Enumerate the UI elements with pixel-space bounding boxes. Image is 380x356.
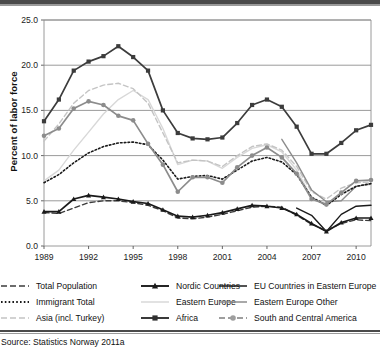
series-marker (176, 131, 180, 135)
series-marker (116, 44, 120, 48)
series-marker (175, 189, 180, 194)
series-marker (324, 152, 328, 156)
y-axis-tick: 25.0 (21, 15, 38, 25)
series-marker (324, 202, 329, 207)
series-marker (146, 142, 151, 147)
legend-item[interactable]: South and Central America (218, 312, 380, 324)
series-marker (42, 133, 47, 138)
chart-area: Percent of labor force 0.05.010.015.020.… (0, 8, 380, 276)
y-axis-tick: 0.0 (26, 241, 38, 251)
series-marker (101, 103, 106, 108)
y-axis-tick: 10.0 (21, 151, 38, 161)
series-marker (57, 126, 62, 131)
legend-label: Immigrant Total (36, 297, 95, 307)
series-marker (220, 180, 225, 185)
series-marker (354, 179, 359, 184)
series-marker (131, 55, 135, 59)
legend-label: Eastern Europe Other (254, 297, 338, 307)
series-marker (205, 175, 210, 180)
chart-legend: Total PopulationNordic CountriesEU Count… (0, 278, 380, 326)
legend-item[interactable]: EU Countries in Eastern Europe (218, 280, 380, 292)
legend-rule-thin (0, 333, 380, 334)
series-marker (250, 153, 255, 158)
legend-row: Total PopulationNordic CountriesEU Count… (0, 278, 380, 294)
series-marker (161, 108, 165, 112)
series-marker (86, 59, 90, 63)
series-marker (369, 123, 373, 127)
legend-swatch-icon (0, 280, 30, 292)
series-marker (295, 125, 299, 129)
y-axis-tick: 15.0 (21, 105, 38, 115)
figure-container: Percent of labor force 0.05.010.015.020.… (0, 0, 380, 356)
source-note: Source: Statistics Norway 2011a (1, 337, 125, 347)
series-marker (235, 121, 239, 125)
series-marker (339, 141, 343, 145)
series-marker (280, 105, 284, 109)
legend-label: South and Central America (254, 313, 357, 323)
legend-item[interactable]: Total Population (0, 280, 140, 292)
legend-item[interactable]: Eastern Europe (140, 296, 218, 308)
series-marker (250, 103, 254, 107)
legend-row: Immigrant TotalEastern EuropeEastern Eur… (0, 294, 380, 310)
y-axis-tick: 20.0 (21, 60, 38, 70)
series-marker (191, 136, 195, 140)
series-marker (265, 145, 270, 150)
series-marker (57, 97, 61, 101)
x-axis-tick: 1998 (168, 252, 187, 262)
series-marker (101, 54, 105, 58)
series-marker (131, 118, 136, 123)
series-marker (42, 119, 46, 123)
legend-item[interactable]: Eastern Europe Other (218, 296, 380, 308)
series-marker (72, 69, 76, 73)
legend-row: Asia (incl. Turkey)AfricaSouth and Centr… (0, 310, 380, 326)
legend-label: EU Countries in Eastern Europe (254, 281, 376, 291)
series-line (44, 91, 371, 207)
legend-swatch-icon (218, 296, 248, 308)
series-marker (71, 106, 76, 111)
top-rule-thin (0, 4, 380, 6)
legend-item[interactable]: Asia (incl. Turkey) (0, 312, 140, 324)
legend-swatch-icon (218, 280, 248, 292)
x-axis-tick: 2001 (213, 252, 232, 262)
series-marker (86, 99, 91, 104)
y-axis-label: Percent of labor force (8, 47, 19, 197)
series-marker (146, 69, 150, 73)
legend-swatch-icon (140, 296, 170, 308)
x-axis-tick: 2010 (347, 252, 366, 262)
series-marker (339, 190, 344, 195)
line-chart-plot: 0.05.010.015.020.025.0198919921995199820… (0, 8, 380, 276)
series-marker (294, 171, 299, 176)
series-marker (354, 128, 358, 132)
series-marker (265, 97, 269, 101)
legend-swatch-icon (140, 280, 170, 292)
legend-item[interactable]: Nordic Countries (140, 280, 218, 292)
series-marker (280, 155, 285, 160)
x-axis-tick: 2004 (257, 252, 276, 262)
legend-swatch-icon (140, 312, 170, 324)
legend-label: Total Population (36, 281, 97, 291)
x-axis-tick: 1989 (34, 252, 53, 262)
series-marker (309, 197, 314, 202)
x-axis-tick: 1992 (79, 252, 98, 262)
y-axis-tick: 5.0 (26, 196, 38, 206)
series-marker (116, 114, 121, 119)
series-marker (205, 137, 209, 141)
legend-swatch-icon (0, 296, 30, 308)
series-marker (235, 165, 240, 170)
legend-swatch-icon (0, 312, 30, 324)
series-marker (190, 175, 195, 180)
series-marker (369, 178, 374, 183)
legend-item[interactable]: Africa (140, 312, 218, 324)
legend-label: Africa (176, 313, 198, 323)
legend-item[interactable]: Immigrant Total (0, 296, 140, 308)
x-axis-tick: 1995 (124, 252, 143, 262)
series-marker (161, 162, 166, 167)
series-marker (220, 135, 224, 139)
legend-label: Asia (incl. Turkey) (36, 313, 104, 323)
series-marker (309, 152, 313, 156)
series-line (44, 101, 371, 204)
legend-swatch-icon (218, 312, 248, 324)
series-line (282, 139, 371, 201)
x-axis-tick: 2007 (302, 252, 321, 262)
